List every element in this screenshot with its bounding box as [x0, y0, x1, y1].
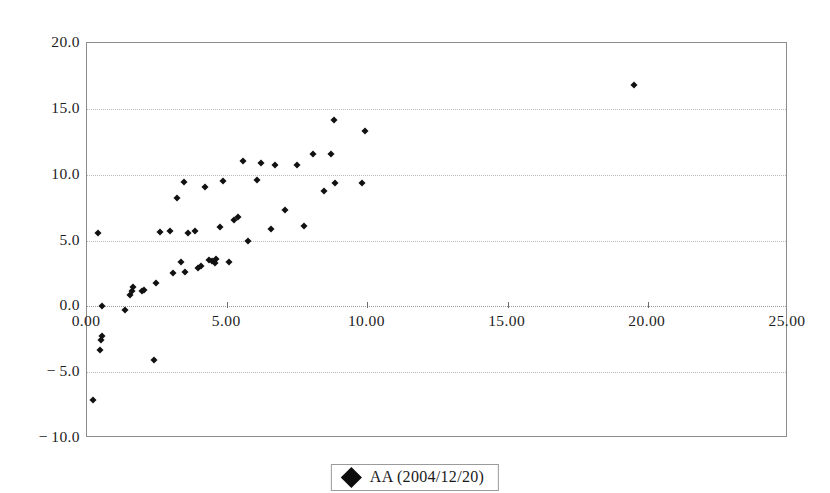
x-axis-tick	[648, 302, 649, 308]
diamond-marker-icon	[341, 466, 362, 487]
data-point	[152, 280, 159, 287]
data-point	[267, 226, 274, 233]
gridline-y	[87, 241, 786, 242]
data-point	[191, 227, 198, 234]
data-point	[630, 82, 637, 89]
data-point	[177, 259, 184, 266]
data-point	[320, 188, 327, 195]
chart-legend: AA (2004/12/20)	[331, 464, 499, 491]
data-point	[217, 223, 224, 230]
data-point	[309, 151, 316, 158]
y-axis-tick-label: 20.0	[6, 33, 80, 51]
data-point	[271, 161, 278, 168]
x-axis-tick	[227, 302, 228, 308]
y-axis-tick-label: 10.0	[6, 165, 80, 183]
plot-frame	[86, 42, 787, 437]
data-point	[141, 286, 148, 293]
y-axis-tick-label: 5.0	[6, 231, 80, 249]
data-point	[182, 269, 189, 276]
x-axis-tick-label: 5.00	[212, 312, 241, 330]
x-axis-tick-label: 10.00	[348, 312, 385, 330]
data-point	[239, 157, 246, 164]
gridline-y	[87, 306, 786, 307]
x-axis-tick	[508, 302, 509, 308]
data-point	[89, 396, 96, 403]
data-point	[358, 180, 365, 187]
data-point	[327, 150, 334, 157]
data-point	[330, 116, 337, 123]
y-axis-label-group: 20.015.010.05.00.0− 5.0− 10.0	[0, 42, 80, 437]
legend-series-label: AA (2004/12/20)	[370, 468, 484, 486]
data-point	[201, 184, 208, 191]
scatter-chart: 20.015.010.05.00.0− 5.0− 10.0 0.005.0010…	[0, 0, 830, 493]
data-point	[151, 356, 158, 363]
x-axis-tick-label: 0.00	[72, 312, 101, 330]
data-point	[166, 228, 173, 235]
data-point	[294, 161, 301, 168]
x-axis-tick-label: 25.00	[769, 312, 806, 330]
gridline-y	[87, 372, 786, 373]
data-point	[301, 222, 308, 229]
x-axis-tick-label: 15.00	[488, 312, 525, 330]
y-axis-tick-label: − 10.0	[6, 428, 80, 446]
data-point	[235, 213, 242, 220]
plot-area	[87, 43, 786, 436]
data-point	[253, 176, 260, 183]
data-point	[281, 206, 288, 213]
x-axis-tick-label: 20.00	[628, 312, 665, 330]
data-point	[95, 230, 102, 237]
y-axis-tick-label: 15.0	[6, 99, 80, 117]
y-axis-tick-label: − 5.0	[6, 362, 80, 380]
x-axis-tick	[367, 302, 368, 308]
data-point	[180, 178, 187, 185]
data-point	[245, 238, 252, 245]
x-axis-label-group: 0.005.0010.0015.0020.0025.00	[0, 312, 830, 336]
data-point	[332, 180, 339, 187]
data-point	[156, 228, 163, 235]
data-point	[219, 177, 226, 184]
data-point	[173, 195, 180, 202]
data-point	[225, 258, 232, 265]
data-point	[99, 303, 106, 310]
data-point	[96, 347, 103, 354]
gridline-y	[87, 109, 786, 110]
data-point	[169, 269, 176, 276]
gridline-y	[87, 175, 786, 176]
data-point	[257, 160, 264, 167]
data-point	[361, 128, 368, 135]
